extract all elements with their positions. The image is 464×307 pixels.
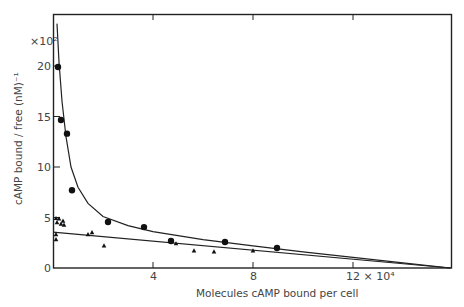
y-tick-label: 0: [44, 262, 51, 275]
axis-ticks: 4812 × 10⁴05101520: [37, 15, 395, 284]
circle-point: [168, 238, 174, 244]
circle-point: [141, 224, 147, 230]
triangle-point: [54, 237, 59, 241]
y-axis-label: cAMP bound / free (nM)⁻¹: [12, 72, 24, 205]
fit-line: [53, 232, 451, 268]
triangle-point: [212, 249, 217, 253]
circle-point: [105, 219, 111, 225]
x-tick-label: 4: [150, 270, 157, 283]
circle-point: [222, 239, 228, 245]
axis-labels: ×10² Molecules cAMP bound per cell cAMP …: [12, 35, 358, 299]
plot-frame: [54, 15, 452, 269]
triangle-point: [86, 232, 91, 236]
circle-point: [58, 117, 64, 123]
x-tick-label: 8: [250, 270, 257, 283]
triangle-point: [61, 218, 66, 222]
x-tick-label: 12 × 10⁴: [346, 270, 395, 283]
triangle-point: [102, 243, 107, 247]
circle-point: [274, 245, 280, 251]
y-multiplier-label: ×10²: [30, 35, 58, 48]
y-tick-label: 20: [37, 60, 51, 73]
y-tick-label: 5: [44, 212, 51, 225]
y-tick-label: 10: [37, 161, 51, 174]
fit-lines: [53, 24, 451, 268]
fit-line: [57, 24, 451, 268]
circle-point: [69, 187, 75, 193]
triangle-point: [192, 248, 197, 252]
data-points: [54, 64, 280, 254]
triangle-point: [90, 230, 95, 234]
scatchard-plot: 4812 × 10⁴05101520 ×10² Molecules cAMP b…: [0, 0, 464, 307]
x-axis-label: Molecules cAMP bound per cell: [196, 287, 358, 299]
circle-point: [55, 64, 61, 70]
y-tick-label: 15: [37, 111, 51, 124]
circle-point: [64, 130, 70, 136]
